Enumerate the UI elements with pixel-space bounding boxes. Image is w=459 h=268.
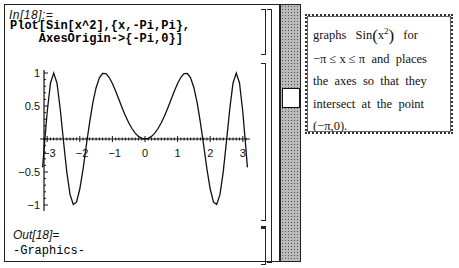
svg-text:0: 0 (142, 147, 148, 159)
svg-text:−0.5: −0.5 (18, 166, 40, 178)
output-value: -Graphics- (13, 244, 85, 258)
annotation-line-2: −π ≤ x ≤ π and places (313, 48, 445, 71)
output-cell-bracket[interactable] (261, 226, 266, 265)
svg-text:2: 2 (207, 147, 213, 159)
cell-group-bracket[interactable] (267, 9, 272, 263)
svg-text:1: 1 (175, 147, 181, 159)
svg-text:−3: −3 (43, 147, 56, 159)
annotation-line-1: graphs Sin(x2) for (313, 20, 445, 48)
svg-text:0.5: 0.5 (25, 100, 40, 112)
svg-text:−1: −1 (108, 147, 121, 159)
svg-text:1: 1 (34, 67, 40, 79)
svg-text:−1: −1 (27, 199, 40, 211)
svg-text:3: 3 (240, 147, 246, 159)
plot-graphic[interactable]: −3−2−1012310.5−0.5−1 (0, 0, 280, 230)
output-label: Out[18]= (13, 228, 59, 242)
annotation-line-5: (−π,0). (313, 115, 445, 138)
input-cell-bracket[interactable] (261, 9, 266, 55)
annotation-line-3: the axes so that they (313, 70, 445, 93)
graphics-cell-bracket[interactable] (261, 63, 266, 221)
annotation-box: graphs Sin(x2) for −π ≤ x ≤ π and places… (305, 14, 453, 134)
annotation-line-4: intersect at the point (313, 93, 445, 116)
vertical-scrollbar[interactable] (280, 4, 301, 262)
scrollbar-thumb[interactable] (282, 88, 300, 108)
